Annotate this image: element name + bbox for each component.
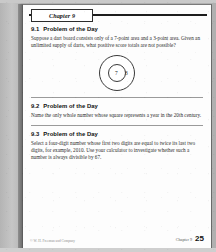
section-divider (31, 97, 203, 98)
section-9-1: 9.1 Problem of the Day Suppose a dart bo… (31, 26, 203, 91)
chapter-tab: Chapter 9 (31, 9, 93, 22)
section-9-3: 9.3 Problem of the Day Select a four-dig… (31, 131, 203, 162)
dartboard-figure: 7 3 (99, 55, 135, 91)
section-body: Name the only whole number whose square … (31, 112, 203, 119)
dartboard-figure-container: 7 3 (31, 55, 203, 91)
section-body: Suppose a dart board consists only of a … (31, 35, 203, 49)
footer-chapter-label: Chapter 9 (176, 237, 192, 242)
section-heading: 9.3 Problem of the Day (31, 131, 203, 137)
section-number: 9.1 (31, 26, 39, 32)
section-heading: 9.1 Problem of the Day (31, 26, 203, 32)
scan-bottom-edge (0, 248, 216, 252)
dartboard-outer-value: 3 (125, 71, 128, 76)
chapter-tab-label: Chapter 9 (49, 12, 75, 19)
section-body: Select a four-digit number whose first t… (31, 140, 203, 162)
page-number: 25 (195, 234, 204, 243)
dartboard-inner-value: 7 (115, 71, 118, 76)
page-footer: © W. H. Freeman and Company Chapter 9 25 (30, 233, 204, 243)
document-page: Chapter 9 9.1 Problem of the Day Suppose… (22, 4, 212, 248)
scan-top-edge (0, 0, 216, 3)
footer-page-marker: Chapter 9 25 (176, 234, 204, 243)
section-number: 9.3 (31, 131, 39, 137)
footer-copyright: © W. H. Freeman and Company (30, 239, 75, 243)
section-title: Problem of the Day (43, 131, 98, 137)
section-title: Problem of the Day (43, 103, 98, 109)
section-divider (31, 125, 203, 126)
section-heading: 9.2 Problem of the Day (31, 103, 203, 109)
page-content: 9.1 Problem of the Day Suppose a dart bo… (31, 26, 203, 162)
section-number: 9.2 (31, 103, 39, 109)
chapter-header: Chapter 9 (29, 9, 207, 23)
section-9-2: 9.2 Problem of the Day Name the only who… (31, 103, 203, 119)
section-title: Problem of the Day (43, 26, 98, 32)
